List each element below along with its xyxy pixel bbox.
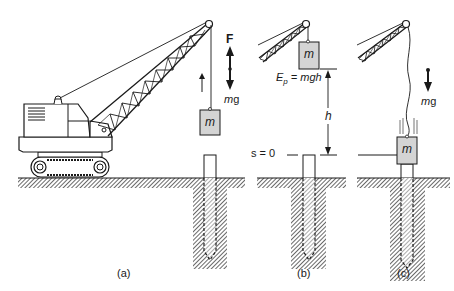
- pile-top-c: [401, 164, 413, 178]
- mass-label-b: m: [304, 48, 314, 60]
- mass-label-a: m: [205, 116, 215, 128]
- pile-top-a: [204, 155, 216, 178]
- pe-label-eq: = mgh: [288, 71, 322, 83]
- potential-energy-label: Ep = mgh: [276, 72, 322, 86]
- pile-embedded-a: [204, 178, 216, 260]
- crane-body: [19, 96, 112, 152]
- caption-a: (a): [117, 268, 130, 279]
- mass-label-c: m: [402, 143, 412, 155]
- caption-b: (b): [297, 268, 310, 279]
- weight-label-c-g: g: [430, 95, 436, 107]
- weight-label-a: mg: [224, 94, 239, 105]
- reference-label: s = 0: [251, 148, 275, 159]
- weight-label-a-g: g: [233, 93, 239, 105]
- force-arrows-icon: [226, 46, 234, 90]
- weight-label-c: mg: [421, 96, 436, 107]
- height-label: h: [325, 110, 332, 122]
- up-motion-arrow-icon: [199, 73, 205, 92]
- crane-boom-partial-c: [357, 21, 417, 138]
- panel-b: [257, 21, 346, 270]
- force-up-label: F: [226, 33, 233, 45]
- pile-embedded-b: [303, 178, 315, 260]
- pile-top-b: [303, 155, 315, 178]
- weight-label-c-m: m: [421, 95, 430, 107]
- gravity-arrow-icon: [424, 68, 432, 92]
- slack-cable: [406, 27, 411, 138]
- pile-embedded-c: [401, 178, 413, 268]
- caption-c: (c): [397, 268, 410, 279]
- crane-tracks: [31, 152, 109, 177]
- panel-a: [18, 21, 245, 270]
- weight-label-a-m: m: [224, 93, 233, 105]
